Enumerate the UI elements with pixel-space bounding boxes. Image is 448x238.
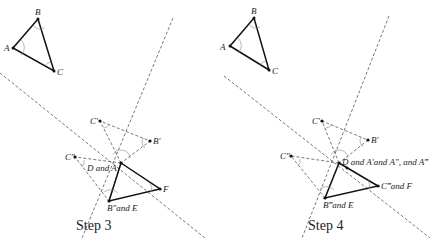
- label-b: B: [35, 7, 41, 17]
- triangle-def: [325, 163, 378, 198]
- label-c-prime: C′: [90, 116, 99, 126]
- label-c-double-prime: C″: [280, 151, 290, 161]
- panel-step-4: A B C C′ B′ C″ D and A′and A″, and A‴ C‴…: [219, 6, 430, 238]
- label-c: C: [57, 67, 64, 77]
- label-d: D and A: [86, 163, 117, 173]
- caption-step-3: Step 3: [76, 218, 111, 233]
- label-a: A: [219, 42, 226, 52]
- label-c-prime: C′: [312, 116, 321, 126]
- label-e: B‴and E: [323, 200, 354, 210]
- angle-b-mark: [33, 25, 44, 29]
- label-a: A: [3, 43, 10, 53]
- panel-step-3: A B C C′ B′ C″ D and A F B″and E Step 3: [0, 7, 205, 238]
- diagram-canvas: A B C C′ B′ C″ D and A F B″and E Step 3: [0, 0, 448, 238]
- triangle-image-2: [291, 156, 339, 198]
- label-b-prime: B′: [153, 136, 161, 146]
- caption-step-4: Step 4: [308, 218, 343, 233]
- label-c-double-prime: C″: [65, 152, 75, 162]
- label-b: B: [251, 6, 257, 16]
- angle-c-mark: [45, 62, 51, 66]
- label-f: C‴and F: [381, 181, 413, 191]
- label-d: D and A′and A″, and A‴: [341, 157, 429, 167]
- label-c: C: [272, 66, 279, 76]
- label-f: F: [162, 184, 169, 194]
- label-b-prime: B′: [371, 135, 379, 145]
- label-e: B″and E: [107, 203, 138, 213]
- triangle-image-1: [100, 121, 150, 163]
- triangle-abc: [230, 18, 269, 70]
- reflection-line-1: [0, 73, 205, 238]
